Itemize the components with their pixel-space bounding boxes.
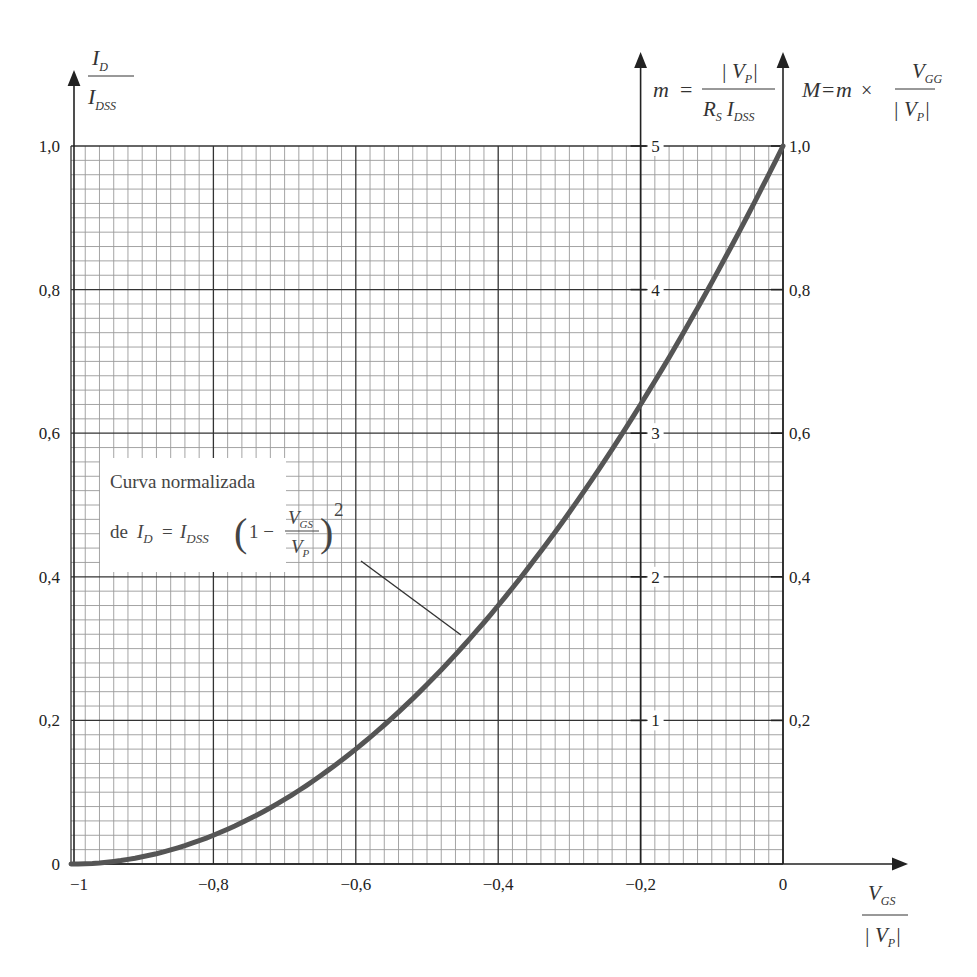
svg-text:Curva normalizada: Curva normalizada bbox=[110, 471, 256, 492]
x-tick-label: −0,6 bbox=[340, 875, 371, 894]
M-tick-label: 0,4 bbox=[789, 568, 811, 587]
svg-text:m: m bbox=[653, 77, 669, 102]
svg-text:RSIDSS: RSIDSS bbox=[702, 97, 755, 124]
svg-text:=: = bbox=[822, 77, 834, 102]
svg-text:2: 2 bbox=[334, 499, 344, 520]
svg-text:×: × bbox=[861, 79, 872, 101]
x-tick-label: −0,8 bbox=[198, 875, 229, 894]
svg-text:de: de bbox=[110, 521, 128, 542]
y-tick-label: 1,0 bbox=[39, 137, 60, 156]
svg-text:M: M bbox=[801, 77, 822, 102]
m-tick-label: 4 bbox=[651, 281, 660, 300]
m-tick-label: 2 bbox=[651, 568, 660, 587]
m-tick-label: 1 bbox=[651, 711, 660, 730]
m-tick-label: 3 bbox=[651, 424, 660, 443]
m-axis-label: m = | VP| RSIDSS bbox=[653, 59, 775, 124]
svg-text:VGG: VGG bbox=[912, 59, 942, 86]
y-tick-label: 0,4 bbox=[39, 568, 61, 587]
y-tick-label: 0,8 bbox=[39, 281, 60, 300]
annotation-leader-line bbox=[361, 561, 461, 635]
x-tick-label: 0 bbox=[779, 875, 788, 894]
svg-text:=: = bbox=[162, 521, 173, 542]
svg-text:VGS: VGS bbox=[868, 881, 896, 908]
svg-text:(: ( bbox=[234, 510, 247, 555]
svg-text:): ) bbox=[320, 510, 333, 555]
M-tick-label: 0,2 bbox=[789, 711, 810, 730]
svg-text:ID: ID bbox=[91, 45, 108, 74]
svg-text:m: m bbox=[836, 77, 852, 102]
svg-text:1 −: 1 − bbox=[249, 521, 274, 542]
x-axis-label: VGS | VP| bbox=[862, 881, 908, 950]
y-axis-label: ID IDSS bbox=[87, 45, 134, 113]
y-tick-label: 0,2 bbox=[39, 711, 60, 730]
svg-text:| VP|: | VP| bbox=[864, 923, 901, 950]
svg-text:VP: VP bbox=[291, 536, 310, 559]
svg-text:| VP|: | VP| bbox=[721, 59, 758, 86]
chart-canvas: 00,20,40,60,81,0−1−0,8−0,6−0,4−0,2012345… bbox=[0, 0, 977, 977]
y-tick-label: 0,6 bbox=[39, 424, 60, 443]
M-tick-label: 0,6 bbox=[789, 424, 810, 443]
M-tick-label: 0,8 bbox=[789, 281, 810, 300]
m-tick-label: 5 bbox=[651, 137, 660, 156]
svg-text:=: = bbox=[680, 77, 692, 102]
svg-text:| VP|: | VP| bbox=[893, 97, 930, 124]
M-tick-label: 1,0 bbox=[789, 137, 810, 156]
x-tick-label: −0,2 bbox=[625, 875, 656, 894]
x-tick-label: −0,4 bbox=[483, 875, 514, 894]
M-axis-label: M = m × VGG | VP| bbox=[801, 59, 942, 124]
y-tick-label: 0 bbox=[52, 855, 61, 874]
svg-text:IDSS: IDSS bbox=[87, 84, 116, 113]
x-tick-label: −1 bbox=[70, 875, 88, 894]
svg-text:VGS: VGS bbox=[288, 507, 314, 530]
